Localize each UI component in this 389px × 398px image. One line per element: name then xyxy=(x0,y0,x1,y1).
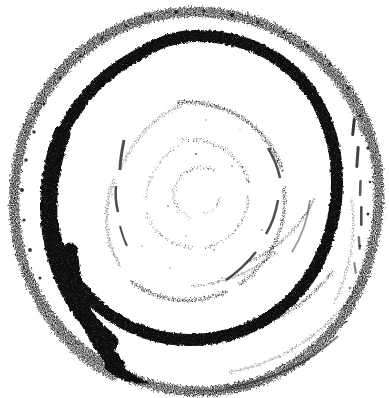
ink-spiral-artboard: A roughly circular hand-drawn spiral pai… xyxy=(0,0,389,398)
ink-spiral-drawing: A roughly circular hand-drawn spiral pai… xyxy=(0,0,389,398)
